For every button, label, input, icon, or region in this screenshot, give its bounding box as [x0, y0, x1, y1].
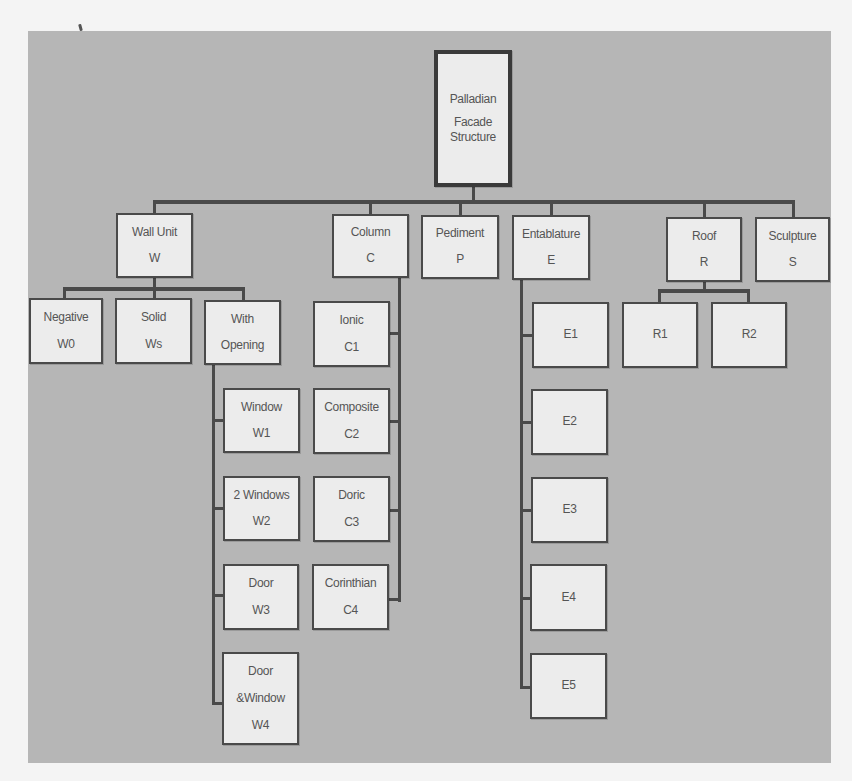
node-code: E5 — [561, 679, 575, 692]
node-r2: R2 — [711, 302, 787, 368]
node-entablature: Entablature E — [512, 215, 590, 280]
node-code: E2 — [562, 415, 576, 428]
node-e5: E5 — [530, 653, 607, 719]
node-label: Ionic — [340, 314, 364, 327]
node-corinthian-c4: Corinthian C4 — [312, 564, 389, 630]
node-window-w1: Window W1 — [223, 388, 300, 453]
connector-column-c1 — [389, 332, 400, 335]
node-code: Ws — [145, 338, 162, 351]
node-e3: E3 — [531, 477, 608, 543]
node-label: Corinthian — [325, 577, 377, 590]
node-code: W4 — [252, 719, 269, 732]
root-line-2: Facade — [454, 116, 492, 129]
node-label: Doric — [338, 489, 365, 502]
node-r1: R1 — [622, 302, 698, 368]
connector-wall-drop-opening — [242, 287, 245, 300]
connector-drop-entablature — [550, 200, 553, 216]
node-code: C1 — [344, 341, 359, 354]
node-e4: E4 — [530, 564, 607, 631]
node-sculpture: Sculpture S — [755, 217, 830, 282]
node-code: R1 — [653, 328, 668, 341]
node-label: With — [231, 313, 254, 326]
node-column: Column C — [332, 214, 409, 278]
node-2windows-w2: 2 Windows W2 — [223, 476, 300, 541]
connector-column-c4 — [389, 598, 400, 601]
node-label: 2 Windows — [234, 489, 290, 502]
node-code: E4 — [561, 591, 575, 604]
connector-roof-drop-r1 — [658, 289, 661, 302]
node-label: Wall Unit — [132, 226, 177, 239]
node-code: W — [149, 252, 160, 265]
node-code: C4 — [343, 604, 358, 617]
node-code: W2 — [253, 515, 270, 528]
root-line-3: Structure — [450, 131, 496, 144]
connector-roof-drop-r2 — [747, 289, 750, 302]
node-label: Sculpture — [769, 230, 817, 243]
node-code: C3 — [344, 516, 359, 529]
node-label-2: Opening — [221, 339, 264, 352]
connector-column-spine — [398, 277, 401, 602]
node-code: E — [547, 254, 555, 267]
node-code: E3 — [562, 503, 576, 516]
connector-main-bar — [153, 200, 795, 204]
node-root: Palladian Facade Structure — [434, 50, 512, 187]
root-line-1: Palladian — [450, 93, 497, 106]
node-e2: E2 — [531, 389, 608, 455]
node-pediment: Pediment P — [421, 215, 499, 279]
node-wall-unit: Wall Unit W — [116, 213, 193, 278]
connector-drop-wall — [153, 200, 156, 214]
node-code: C2 — [344, 428, 359, 441]
node-label: Column — [351, 226, 391, 239]
node-label-2: &Window — [236, 692, 285, 705]
connector-column-c3 — [389, 509, 400, 512]
node-roof: Roof R — [666, 217, 742, 282]
node-label: Composite — [324, 401, 379, 414]
node-code: P — [456, 253, 464, 266]
node-code: E1 — [563, 328, 577, 341]
node-code: S — [789, 256, 797, 269]
node-label: Door — [248, 665, 273, 678]
connector-entablature-spine — [520, 279, 523, 689]
node-solid: Solid Ws — [115, 298, 192, 364]
node-doric-c3: Doric C3 — [313, 476, 390, 542]
connector-drop-pediment — [459, 200, 462, 216]
node-e1: E1 — [532, 302, 609, 368]
node-label: Roof — [692, 230, 716, 243]
node-label: Pediment — [436, 227, 484, 240]
connector-drop-column — [369, 200, 372, 215]
node-label: Entablature — [522, 228, 580, 241]
scan-artifact — [78, 24, 83, 32]
node-code: R — [700, 256, 708, 269]
node-label: Window — [241, 401, 282, 414]
node-ionic-c1: Ionic C1 — [313, 301, 390, 367]
node-code: W1 — [253, 427, 270, 440]
node-code: W3 — [252, 604, 269, 617]
connector-drop-roof — [703, 200, 706, 218]
node-negative: Negative W0 — [29, 298, 103, 364]
connector-entablature-e1 — [520, 334, 532, 337]
connector-roof-bar — [658, 289, 750, 293]
connector-opening-spine — [212, 364, 215, 705]
node-with-opening: With Opening — [204, 300, 281, 365]
connector-drop-sculpture — [792, 200, 795, 218]
node-code: W0 — [57, 338, 74, 351]
node-door-window-w4: Door &Window W4 — [222, 652, 299, 745]
node-label: Negative — [44, 311, 89, 324]
diagram-background — [28, 31, 831, 763]
node-label: Solid — [141, 311, 166, 324]
node-code: R2 — [742, 328, 757, 341]
node-composite-c2: Composite C2 — [313, 388, 390, 454]
connector-column-c2 — [389, 420, 400, 423]
node-door-w3: Door W3 — [223, 564, 299, 630]
node-code: C — [366, 252, 374, 265]
node-label: Door — [249, 577, 274, 590]
